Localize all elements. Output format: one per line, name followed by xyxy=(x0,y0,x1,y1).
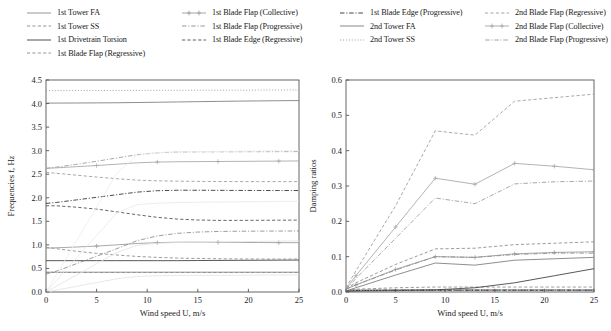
x-tick-label: 25 xyxy=(590,296,598,305)
series-line xyxy=(46,206,299,221)
legend-line-swatch-icon xyxy=(339,21,365,31)
x-tick-label: 25 xyxy=(295,296,303,305)
legend-item-label: 1st Blade Flap (Progressive) xyxy=(212,22,302,31)
legend-item[interactable]: 1st Blade Flap (Progressive) xyxy=(181,20,302,34)
y-tick-label: 0.3 xyxy=(332,182,342,191)
legend-column-0: 1st Tower FA1st Tower SS1st Drivetrain T… xyxy=(26,6,145,60)
series-line xyxy=(46,161,299,168)
series-line xyxy=(46,90,299,91)
legend-item[interactable]: 1st Blade Edge (Progressive) xyxy=(339,6,462,20)
series-line xyxy=(46,275,299,292)
x-tick-label: 15 xyxy=(491,296,499,305)
legend-item[interactable]: 1st Drivetrain Torsion xyxy=(26,33,145,47)
y-tick-label: 0.1 xyxy=(332,253,342,262)
y-axis-title: Frequencies f, Hz xyxy=(6,155,16,216)
legend-item-label: 2nd Blade Flap (Collective) xyxy=(515,22,603,31)
legend: 1st Tower FA1st Tower SS1st Drivetrain T… xyxy=(26,6,596,62)
legend-item[interactable]: 1st Blade Edge (Regressive) xyxy=(181,33,302,47)
legend-item[interactable]: 2nd Tower SS xyxy=(339,33,462,47)
legend-line-swatch-icon xyxy=(484,35,510,45)
legend-column-2: 1st Blade Edge (Progressive)2nd Tower FA… xyxy=(339,6,462,47)
legend-item-label: 1st Tower SS xyxy=(57,22,99,31)
legend-line-swatch-icon xyxy=(484,21,510,31)
legend-item[interactable]: 1st Tower FA xyxy=(26,6,145,20)
legend-item[interactable]: 1st Blade Flap (Collective) xyxy=(181,6,302,20)
plot-frame xyxy=(346,80,594,292)
legend-line-swatch-icon xyxy=(26,8,52,18)
y-tick-label: 0.2 xyxy=(332,217,342,226)
y-axis-title: Damping ratios xyxy=(308,159,318,213)
series-group xyxy=(346,94,596,291)
legend-item[interactable]: 2nd Tower FA xyxy=(339,20,462,34)
legend-item[interactable]: 2nd Blade Flap (Collective) xyxy=(484,20,608,34)
x-tick-label: 20 xyxy=(244,296,252,305)
x-tick-label: 0 xyxy=(44,296,48,305)
y-tick-label: 1.5 xyxy=(32,217,42,226)
figure-root: 1st Tower FA1st Tower SS1st Drivetrain T… xyxy=(0,0,611,331)
legend-column-3: 2nd Blade Flap (Regressive)2nd Blade Fla… xyxy=(484,6,608,47)
x-tick-label: 0 xyxy=(344,296,348,305)
y-tick-label: 0.5 xyxy=(332,111,342,120)
legend-item-label: 1st Blade Edge (Regressive) xyxy=(212,35,302,44)
legend-item-label: 1st Blade Flap (Regressive) xyxy=(57,49,145,58)
legend-item-label: 2nd Blade Flap (Regressive) xyxy=(515,8,606,17)
legend-item-label: 2nd Tower SS xyxy=(370,35,415,44)
legend-line-swatch-icon xyxy=(26,35,52,45)
legend-item-label: 2nd Blade Flap (Progressive) xyxy=(515,35,608,44)
legend-item[interactable]: 1st Blade Flap (Regressive) xyxy=(26,47,145,61)
series-line xyxy=(346,181,594,289)
legend-line-swatch-icon xyxy=(339,8,365,18)
legend-item[interactable]: 2nd Blade Flap (Progressive) xyxy=(484,33,608,47)
x-tick-label: 20 xyxy=(540,296,548,305)
legend-item-label: 1st Drivetrain Torsion xyxy=(57,35,127,44)
legend-line-swatch-icon xyxy=(26,21,52,31)
y-tick-label: 4.0 xyxy=(32,100,42,109)
series-line xyxy=(46,241,299,292)
frequencies-plot: 0.00.51.01.52.02.53.03.54.04.50510152025… xyxy=(0,70,305,331)
damping-ratios-svg: 0.00.10.20.30.40.50.60510152025Wind spee… xyxy=(305,70,611,331)
y-tick-label: 0.0 xyxy=(32,288,42,297)
legend-item-label: 1st Blade Flap (Collective) xyxy=(212,8,298,17)
x-tick-label: 15 xyxy=(194,296,202,305)
legend-line-swatch-icon xyxy=(484,8,510,18)
legend-item-label: 1st Tower FA xyxy=(57,8,100,17)
legend-item[interactable]: 2nd Blade Flap (Regressive) xyxy=(484,6,608,20)
legend-line-swatch-icon xyxy=(339,35,365,45)
legend-item-label: 1st Blade Edge (Progressive) xyxy=(370,8,462,17)
legend-item[interactable]: 1st Tower SS xyxy=(26,20,145,34)
y-tick-label: 1.0 xyxy=(32,241,42,250)
series-line xyxy=(46,101,299,104)
damping-ratios-plot: 0.00.10.20.30.40.50.60510152025Wind spee… xyxy=(305,70,611,331)
x-axis-title: Wind speed U, m/s xyxy=(140,308,206,318)
frequencies-svg: 0.00.51.01.52.02.53.03.54.04.50510152025… xyxy=(0,70,305,331)
series-line xyxy=(46,231,299,274)
series-line xyxy=(46,172,299,181)
legend-line-swatch-icon xyxy=(26,48,52,58)
legend-line-swatch-icon xyxy=(181,35,207,45)
y-tick-label: 0.4 xyxy=(332,147,343,156)
legend-line-swatch-icon xyxy=(181,8,207,18)
y-tick-label: 0.6 xyxy=(332,76,342,85)
legend-item-label: 2nd Tower FA xyxy=(370,22,416,31)
series-group xyxy=(46,90,299,292)
x-axis-title: Wind speed U, m/s xyxy=(437,308,503,318)
series-line xyxy=(346,269,594,292)
x-tick-label: 5 xyxy=(95,296,99,305)
y-tick-label: 3.5 xyxy=(32,123,42,132)
y-tick-label: 0.5 xyxy=(32,264,42,273)
x-tick-label: 10 xyxy=(441,296,449,305)
x-tick-label: 10 xyxy=(143,296,151,305)
x-tick-label: 5 xyxy=(394,296,398,305)
y-tick-label: 2.0 xyxy=(32,194,42,203)
legend-column-1: 1st Blade Flap (Collective)1st Blade Fla… xyxy=(181,6,302,47)
legend-line-swatch-icon xyxy=(181,21,207,31)
y-tick-label: 0.0 xyxy=(332,288,342,297)
y-tick-label: 4.5 xyxy=(32,76,42,85)
y-tick-label: 2.5 xyxy=(32,170,42,179)
y-tick-label: 3.0 xyxy=(32,147,42,156)
